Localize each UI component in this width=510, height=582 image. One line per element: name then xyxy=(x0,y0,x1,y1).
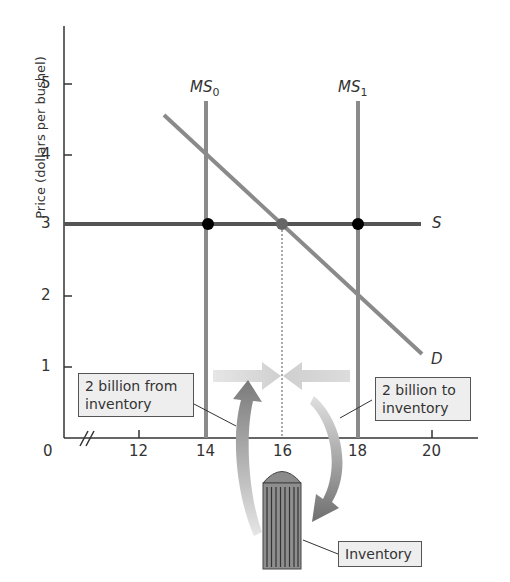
x-ticks xyxy=(139,430,432,438)
leader-inventory xyxy=(303,540,338,554)
point-ms0-s xyxy=(202,218,214,230)
from-inventory-line2: inventory xyxy=(85,395,187,413)
x-tick-16: 16 xyxy=(273,442,292,460)
curved-arrow-to-inventory-icon xyxy=(310,396,342,522)
d-label: D xyxy=(431,350,443,368)
ms1-label: MS1 xyxy=(338,78,367,99)
point-equilibrium xyxy=(276,218,288,230)
y-tick-3: 3 xyxy=(41,214,51,232)
chart-canvas xyxy=(0,0,510,582)
to-inventory-line1: 2 billion to xyxy=(382,381,464,399)
to-inventory-box: 2 billion to inventory xyxy=(375,377,471,421)
leader-from-inventory xyxy=(194,404,236,426)
x-tick-14: 14 xyxy=(196,442,215,460)
flow-arrow-left-icon xyxy=(283,362,350,390)
y-tick-2: 2 xyxy=(41,286,51,304)
from-inventory-box: 2 billion from inventory xyxy=(78,373,194,417)
ms1-label-main: MS xyxy=(338,78,360,96)
y-tick-4: 4 xyxy=(41,145,51,163)
s-label: S xyxy=(432,214,442,232)
silo-icon xyxy=(263,472,301,570)
point-ms1-s xyxy=(352,218,364,230)
curved-arrow-from-inventory-icon xyxy=(233,380,262,536)
y-tick-1: 1 xyxy=(41,357,51,375)
ms0-label-main: MS xyxy=(190,78,212,96)
to-inventory-line2: inventory xyxy=(382,399,464,417)
x-tick-12: 12 xyxy=(129,442,148,460)
x-origin: 0 xyxy=(43,442,53,460)
inventory-box: Inventory xyxy=(338,541,422,567)
ms0-label: MS0 xyxy=(190,78,219,99)
inventory-label: Inventory xyxy=(345,545,415,563)
demand-line-d xyxy=(164,115,422,354)
x-tick-18: 18 xyxy=(348,442,367,460)
ms0-label-sub: 0 xyxy=(212,86,219,99)
ms1-label-sub: 1 xyxy=(360,86,367,99)
y-tick-5: 5 xyxy=(41,74,51,92)
from-inventory-line1: 2 billion from xyxy=(85,377,187,395)
x-tick-20: 20 xyxy=(422,442,441,460)
